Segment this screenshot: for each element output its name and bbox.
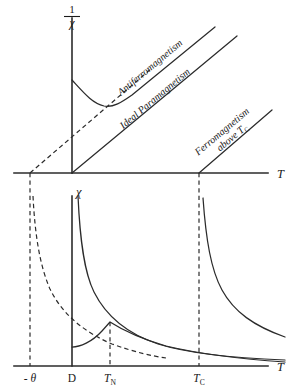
- lower-chart-group: χ T - θ D TN TC: [14, 173, 285, 387]
- tick-label-tn-subscript: N: [110, 378, 116, 387]
- upper-x-axis-label: T: [277, 167, 285, 181]
- tick-label-theta: - θ: [24, 372, 37, 384]
- label-ferromagnetism: Ferromagnetism above TC: [192, 105, 260, 168]
- lower-antiferromagnetism-curve: [72, 322, 285, 362]
- tick-label-tn: TN: [104, 372, 116, 387]
- label-ideal-paramagnetism-text: Ideal Paramagnetism: [117, 66, 192, 132]
- tick-label-tc-subscript: C: [200, 378, 205, 387]
- upper-y-axis-label: 1 χ: [64, 3, 80, 30]
- tick-label-d: D: [68, 372, 76, 384]
- upper-chart-group: 1 χ T Antiferromagnetism Ideal Paramagne…: [14, 3, 285, 181]
- figure-canvas: 1 χ T Antiferromagnetism Ideal Paramagne…: [0, 0, 298, 388]
- lower-ferromagnetism-curve: [203, 198, 285, 337]
- tick-label-tc: TC: [193, 372, 204, 387]
- label-ideal-paramagnetism: Ideal Paramagnetism: [117, 66, 192, 132]
- lower-ideal-paramagnetism-curve: [78, 196, 285, 360]
- magnetic-susceptibility-figure: 1 χ T Antiferromagnetism Ideal Paramagne…: [0, 0, 298, 388]
- upper-y-axis-numerator: 1: [69, 3, 75, 15]
- upper-y-axis-denominator: χ: [68, 17, 75, 30]
